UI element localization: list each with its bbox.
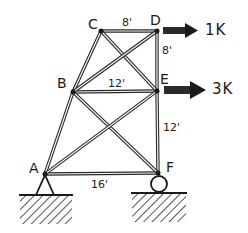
pin-support-A (19, 175, 73, 224)
ground-hatch-F (132, 194, 186, 222)
joint-C (99, 29, 104, 34)
dimension-label-BE: 12' (108, 78, 125, 89)
node-label-D: D (150, 13, 161, 27)
node-label-B: B (57, 76, 67, 90)
ground-hatch-A (20, 196, 72, 224)
member-AE (45, 91, 157, 174)
member-EF (157, 91, 158, 173)
dimension-label-DE: 8' (162, 45, 172, 56)
truss-members (45, 31, 158, 174)
node-label-E: E (160, 72, 169, 86)
node-label-F: F (166, 160, 174, 174)
roller-support-F (131, 176, 187, 222)
node-label-C: C (88, 17, 98, 31)
load-label-1k: 1K (205, 23, 226, 38)
load-arrow-D (163, 23, 198, 38)
dimension-label-EF: 12' (163, 122, 180, 133)
load-label-3k: 3K (212, 82, 233, 97)
member-BE (73, 91, 157, 92)
joint-E (155, 89, 160, 94)
member-BF (73, 92, 158, 173)
joint-D (155, 29, 160, 34)
joint-F (156, 171, 161, 176)
joint-B (71, 90, 76, 95)
load-arrow-E (164, 81, 206, 99)
node-label-A: A (29, 161, 39, 175)
dimension-label-CD: 8' (122, 17, 132, 28)
dimension-label-AF: 16' (91, 179, 108, 190)
member-AF (45, 173, 158, 174)
